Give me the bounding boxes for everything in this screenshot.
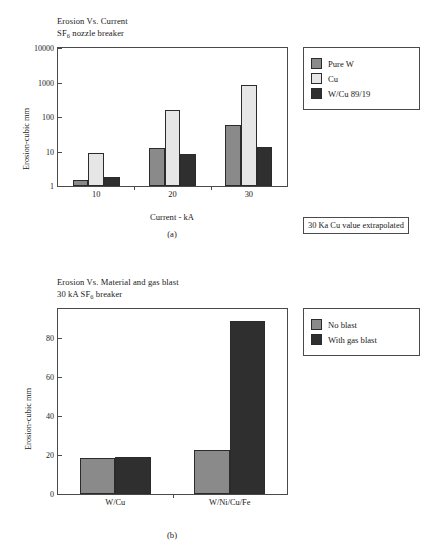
panel-a-xtick-mark <box>134 186 135 190</box>
panel-a-ytick-label: 10000 <box>34 44 58 53</box>
panel-b-caption: (b) <box>167 530 177 540</box>
bar-no-blast-w-ni-cu-fe <box>194 450 229 494</box>
panel-a-ytick-mark <box>58 48 62 49</box>
panel-b-ytick-label: 80 <box>46 334 58 343</box>
panel-b-title-line1: Erosion Vs. Material and gas blast <box>57 277 179 289</box>
panel-b-ytick-mark <box>58 377 62 378</box>
bar-w-cu-89-19-20 <box>180 154 196 186</box>
panel-b-plot-area: 020406080W/CuW/Ni/Cu/Fe <box>57 308 288 495</box>
panel-b-legend: No blastWith gas blast <box>303 308 420 356</box>
bar-cu-20 <box>165 110 181 187</box>
bar-pure-w-30 <box>225 125 241 186</box>
bar-with-gas-blast-w-ni-cu-fe <box>230 321 265 494</box>
panel-a-ytick-mark <box>58 152 62 153</box>
bar-no-blast-w-cu <box>80 458 115 494</box>
panel-b-xtick-mark <box>173 494 174 498</box>
panel-b-xtick-label: W/Cu <box>105 494 125 507</box>
panel-a-ytick-label: 1 <box>50 182 58 191</box>
panel-b-ytick-label: 0 <box>50 490 58 499</box>
panel-b-ytick-label: 60 <box>46 373 58 382</box>
panel-a-title-subscript: 6 <box>67 32 70 39</box>
panel-b-title-line2: 30 kA SF6 breaker <box>57 289 179 301</box>
panel-a-legend-label: W/Cu 89/19 <box>328 89 370 99</box>
panel-b-title-sf: 30 kA SF <box>57 289 90 299</box>
bar-w-cu-89-19-30 <box>257 147 273 186</box>
panel-b-y-axis-label: Erosion-cubic mm <box>24 388 33 450</box>
panel-a-x-axis-label: Current - kA <box>150 212 194 222</box>
panel-a-title-line2: SF6 nozzle breaker <box>57 28 128 40</box>
panel-a-ytick-label: 100 <box>42 113 58 122</box>
panel-b-legend-label: No blast <box>328 320 357 330</box>
panel-a-legend: Pure WCuW/Cu 89/19 <box>303 47 420 110</box>
panel-b-ytick-label: 20 <box>46 451 58 460</box>
panel-a-title-sf: SF <box>57 28 67 38</box>
panel-b-ytick-mark <box>58 416 62 417</box>
panel-a-caption: (a) <box>167 229 177 239</box>
panel-b-legend-label: With gas blast <box>328 335 377 345</box>
figure-panel-b: Erosion Vs. Material and gas blast 30 kA… <box>0 265 431 550</box>
legend-swatch-icon <box>311 58 322 69</box>
panel-a-y-axis-label: Erosion-cubic mm <box>22 108 31 170</box>
bar-w-cu-89-19-10 <box>104 177 120 186</box>
panel-a-ytick-label: 1000 <box>38 78 58 87</box>
panel-a-legend-label: Cu <box>328 74 338 84</box>
figure-panel-a: Erosion Vs. Current SF6 nozzle breaker E… <box>0 0 431 275</box>
bar-cu-10 <box>88 153 104 186</box>
panel-a-note: 30 Ka Cu value extrapolated <box>303 217 409 234</box>
panel-b-ytick-mark <box>58 455 62 456</box>
panel-a-title: Erosion Vs. Current SF6 nozzle breaker <box>57 16 128 39</box>
panel-a-legend-item: W/Cu 89/19 <box>311 88 412 99</box>
bar-with-gas-blast-w-cu <box>115 457 150 494</box>
panel-a-plot-area: 110100100010000102030 <box>57 47 288 187</box>
panel-b-ytick-label: 40 <box>46 412 58 421</box>
panel-b-legend-item: With gas blast <box>311 334 412 345</box>
panel-b-xtick-label: W/Ni/Cu/Fe <box>209 494 250 507</box>
panel-b-ytick-mark <box>58 494 62 495</box>
panel-a-title-line1: Erosion Vs. Current <box>57 16 128 28</box>
panel-a-ytick-mark <box>58 117 62 118</box>
panel-a-legend-item: Pure W <box>311 58 412 69</box>
panel-a-xtick-mark <box>211 186 212 190</box>
panel-a-xtick-label: 20 <box>168 186 176 199</box>
panel-a-xtick-label: 30 <box>245 186 253 199</box>
panel-b-legend-item: No blast <box>311 319 412 330</box>
panel-b-title: Erosion Vs. Material and gas blast 30 kA… <box>57 277 179 300</box>
panel-a-ytick-label: 10 <box>46 147 58 156</box>
panel-a-title-rest: nozzle breaker <box>70 28 124 38</box>
legend-swatch-icon <box>311 88 322 99</box>
panel-a-ytick-mark <box>58 83 62 84</box>
panel-b-title-rest: breaker <box>94 289 123 299</box>
bar-pure-w-20 <box>149 148 165 186</box>
bar-cu-30 <box>241 85 257 186</box>
bar-pure-w-10 <box>73 180 89 186</box>
legend-swatch-icon <box>311 73 322 84</box>
panel-a-ytick-mark <box>58 186 62 187</box>
legend-swatch-icon <box>311 334 322 345</box>
panel-b-ytick-mark <box>58 338 62 339</box>
panel-a-legend-label: Pure W <box>328 59 354 69</box>
panel-a-legend-item: Cu <box>311 73 412 84</box>
panel-a-xtick-label: 10 <box>92 186 100 199</box>
legend-swatch-icon <box>311 319 322 330</box>
panel-b-title-subscript: 6 <box>90 293 93 300</box>
